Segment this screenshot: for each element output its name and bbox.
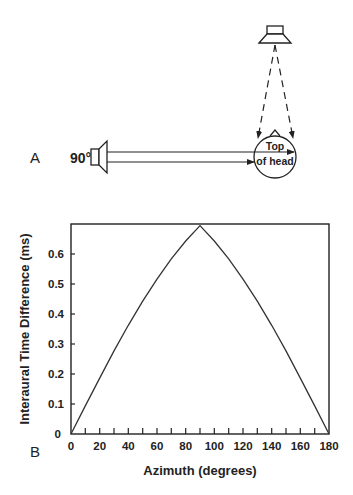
- side-speaker-angle: 90°: [70, 150, 91, 166]
- panel-b-chart: B 0 0.1 0.2 0.3 0.4 0.5 0.6: [17, 224, 339, 478]
- itd-curve: [71, 226, 329, 434]
- figure: A 90° Top of head B: [0, 0, 353, 495]
- panel-a-diagram: A 90° Top of head: [30, 26, 296, 178]
- y-tick-labels: 0 0.1 0.2 0.3 0.4 0.5 0.6: [48, 248, 65, 440]
- svg-text:60: 60: [151, 440, 164, 452]
- x-tick-labels: 0 20 40 60 80 100 120 140 160 180: [68, 440, 339, 452]
- svg-text:0: 0: [55, 428, 61, 440]
- head-label-top: Top: [266, 140, 284, 152]
- x-axis: [85, 428, 314, 434]
- svg-text:100: 100: [205, 440, 224, 452]
- svg-text:20: 20: [93, 440, 106, 452]
- svg-text:140: 140: [262, 440, 281, 452]
- svg-text:160: 160: [291, 440, 310, 452]
- top-speaker-icon: [259, 26, 291, 43]
- svg-text:120: 120: [233, 440, 252, 452]
- svg-text:0: 0: [68, 440, 74, 452]
- svg-text:0.6: 0.6: [48, 248, 64, 260]
- svg-text:0.4: 0.4: [48, 308, 65, 320]
- svg-text:40: 40: [122, 440, 135, 452]
- svg-text:80: 80: [179, 440, 192, 452]
- svg-text:0.5: 0.5: [48, 278, 65, 290]
- panel-b-label: B: [30, 443, 40, 460]
- svg-text:180: 180: [319, 440, 338, 452]
- svg-text:0.3: 0.3: [48, 338, 64, 350]
- plot-frame: [71, 224, 329, 434]
- top-sound-path-arrows: [258, 45, 293, 138]
- svg-text:0.1: 0.1: [48, 398, 65, 410]
- y-axis-title: Interaural Time Difference (ms): [17, 233, 32, 424]
- svg-text:0.2: 0.2: [48, 368, 64, 380]
- head-label-of-head: of head: [256, 155, 293, 167]
- panel-a-label: A: [30, 149, 40, 166]
- head-icon: [254, 130, 296, 178]
- x-axis-title: Azimuth (degrees): [143, 463, 256, 478]
- side-speaker-icon: [91, 141, 107, 173]
